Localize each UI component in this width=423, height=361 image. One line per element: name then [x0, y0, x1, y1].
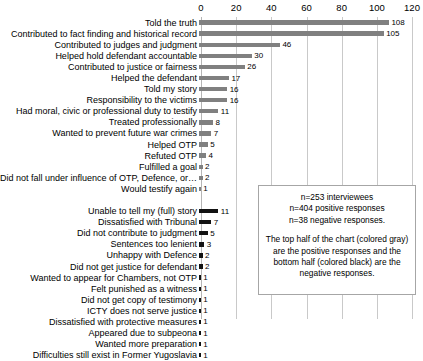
positive-response-label: Would testify again: [0, 184, 199, 194]
positive-response-value: 5: [210, 140, 214, 149]
positive-response-bar: [199, 31, 384, 35]
chart-row: Contributed to justice or fairness26: [0, 61, 423, 72]
x-axis-tick-label: 0: [186, 2, 216, 13]
x-axis-tick-label: 100: [362, 2, 392, 13]
negative-response-value: 1: [203, 284, 207, 293]
bar-track: 1: [199, 305, 423, 316]
bar-track: 108: [199, 17, 423, 28]
chart-row: Wanted more preparation1: [0, 339, 423, 350]
bar-track: 5: [199, 139, 423, 150]
chart-row: Helped OTP5: [0, 139, 423, 150]
negative-response-label: Wanted to appear for Chambers, not OTP: [0, 273, 199, 283]
positive-response-label: Helped the defendant: [0, 73, 199, 83]
positive-response-label: Helped OTP: [0, 140, 199, 150]
positive-response-bar: [199, 43, 280, 47]
bar-track: 2: [199, 172, 423, 183]
negative-response-bar: [199, 231, 208, 235]
positive-response-bar: [199, 87, 227, 91]
negative-response-bar: [199, 242, 204, 246]
negative-response-bar: [199, 331, 201, 335]
chart-row: Refuted OTP4: [0, 150, 423, 161]
positive-response-bar: [199, 120, 213, 124]
negative-response-value: 1: [203, 295, 207, 304]
positive-response-value: 16: [230, 85, 239, 94]
negative-response-bar: [199, 264, 203, 268]
chart-row: Dissatisfied with protective measures1: [0, 316, 423, 327]
bar-track: 2: [199, 161, 423, 172]
bar-track: 46: [199, 39, 423, 50]
bar-track: 26: [199, 61, 423, 72]
note-line-2: n=404 positive responses: [265, 203, 409, 214]
negative-response-value: 7: [214, 218, 218, 227]
negative-response-value: 1: [203, 329, 207, 338]
positive-response-label: Told my story: [0, 84, 199, 94]
negative-response-bar: [199, 298, 201, 302]
negative-response-bar: [199, 220, 211, 224]
bar-track: 17: [199, 72, 423, 83]
negative-response-label: Felt punished as a witness: [0, 284, 199, 294]
negative-response-bar: [199, 275, 201, 279]
negative-response-label: Dissatisfied with protective measures: [0, 317, 199, 327]
positive-response-bar: [199, 165, 203, 169]
negative-response-label: ICTY does not serve justice: [0, 306, 199, 316]
negative-response-bar: [199, 209, 218, 213]
bar-track: 16: [199, 84, 423, 95]
x-axis-tick-label: 40: [256, 2, 286, 13]
negative-response-label: Unhappy with Defence: [0, 250, 199, 260]
chart-row: Fulfilled a goal2: [0, 161, 423, 172]
bar-track: 1: [199, 294, 423, 305]
positive-response-value: 2: [205, 173, 209, 182]
positive-response-value: 1: [203, 184, 207, 193]
positive-response-bar: [199, 109, 218, 113]
negative-response-bar: [199, 320, 201, 324]
negative-response-label: Appeared due to subpeona: [0, 328, 199, 338]
positive-response-label: Told the truth: [0, 18, 199, 28]
positive-response-value: 11: [221, 107, 229, 116]
negative-response-label: Dissatisfied with Tribunal: [0, 217, 199, 227]
positive-response-label: Contributed to fact finding and historic…: [0, 29, 199, 39]
negative-response-bar: [199, 287, 201, 291]
positive-response-bar: [199, 187, 201, 191]
negative-response-label: Did not contribute to judgment: [0, 228, 199, 238]
chart-row: Helped the defendant17: [0, 72, 423, 83]
positive-response-bar: [199, 131, 211, 135]
positive-response-label: Fulfilled a goal: [0, 162, 199, 172]
bar-track: 8: [199, 117, 423, 128]
chart-row: Difficulties still exist in Former Yugos…: [0, 350, 423, 361]
positive-response-label: Contributed to justice or fairness: [0, 62, 199, 72]
positive-response-value: 2: [205, 162, 209, 171]
positive-response-value: 108: [391, 18, 404, 27]
x-axis-tick-label: 20: [221, 2, 251, 13]
chart-row: ICTY does not serve justice1: [0, 305, 423, 316]
positive-response-bar: [199, 176, 203, 180]
chart-row: Appeared due to subpeona1: [0, 328, 423, 339]
negative-response-value: 2: [205, 262, 209, 271]
note-line-1: n=253 interviewees: [265, 192, 409, 203]
negative-response-label: Unable to tell my (full) story: [0, 206, 199, 216]
negative-response-label: Did not get justice for defendant: [0, 262, 199, 272]
chart-row: Wanted to prevent future war crimes7: [0, 128, 423, 139]
positive-response-label: Helped hold defendant accountable: [0, 51, 199, 61]
positive-response-bar: [199, 142, 208, 146]
negative-response-value: 1: [203, 340, 207, 349]
chart-row: Treated professionally8: [0, 117, 423, 128]
note-line-3: n=38 negative responses.: [265, 215, 409, 226]
chart-row: Helped hold defendant accountable30: [0, 50, 423, 61]
positive-response-value: 26: [247, 62, 256, 71]
negative-response-value: 1: [203, 317, 207, 326]
negative-response-bar: [199, 342, 201, 346]
chart-row: Told my story16: [0, 84, 423, 95]
positive-response-value: 17: [231, 74, 240, 83]
positive-response-label: Wanted to prevent future war crimes: [0, 128, 199, 138]
chart-row: Did not get copy of testimony1: [0, 294, 423, 305]
negative-response-bar: [199, 353, 201, 357]
positive-response-label: Contributed to judges and judgment: [0, 40, 199, 50]
negative-response-value: 5: [210, 229, 214, 238]
positive-response-value: 8: [216, 118, 220, 127]
bar-track: 1: [199, 339, 423, 350]
positive-response-value: 46: [282, 40, 291, 49]
chart-row: Contributed to fact finding and historic…: [0, 28, 423, 39]
bar-track: 7: [199, 128, 423, 139]
negative-response-value: 1: [203, 273, 207, 282]
chart-row: Responsibility to the victims16: [0, 95, 423, 106]
